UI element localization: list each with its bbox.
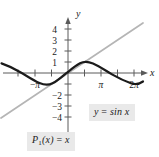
- legend-taylor-equation: P1(x) = x: [27, 132, 75, 151]
- legend-taylor-argument: (x): [42, 134, 54, 145]
- x-tick-label-2pi: 2π: [129, 80, 139, 90]
- y-tick-label-neg4: −4: [52, 113, 62, 123]
- y-tick-label-4: 4: [52, 25, 57, 35]
- x-tick-label-pi: π: [99, 80, 104, 90]
- y-tick-label-2: 2: [52, 47, 57, 57]
- legend-taylor-rhs: x: [65, 134, 70, 145]
- x-tick-label-neg-pi: −π: [30, 80, 40, 90]
- axis-lines: [3, 17, 148, 141]
- y-tick-label-neg3: −3: [52, 102, 62, 112]
- y-tick-label-neg2: −2: [52, 91, 62, 101]
- legend-sine-rhs: sin x: [110, 106, 130, 117]
- taylor-polynomial-figure: y x 4 3 2 1 −2 −3 −4 −π π 2π y = sin x P…: [0, 0, 159, 157]
- y-tick-label-1: 1: [52, 58, 57, 68]
- y-tick-label-3: 3: [52, 36, 57, 46]
- x-axis-label: x: [149, 67, 155, 78]
- legend-sine-lhs: y: [94, 106, 99, 117]
- graph-canvas: y x 4 3 2 1 −2 −3 −4 −π π 2π: [0, 0, 159, 157]
- legend-sine-equation: y = sin x: [89, 104, 135, 121]
- y-axis-label: y: [75, 8, 81, 19]
